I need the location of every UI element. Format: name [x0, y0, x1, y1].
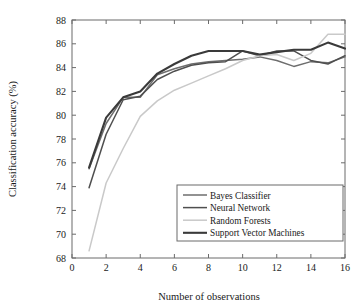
chart-figure: 0246810121416 6870727476788082848688 Num…: [0, 0, 364, 308]
x-tick-label: 0: [70, 262, 75, 273]
y-tick-label: 76: [56, 157, 66, 168]
y-tick-label: 78: [56, 134, 66, 145]
x-tick-label: 12: [272, 262, 282, 273]
y-axis-title: Classification accuracy (%): [7, 80, 19, 197]
x-axis-title: Number of observations: [158, 291, 259, 302]
y-tick-label: 84: [56, 62, 66, 73]
x-tick-label: 8: [206, 262, 211, 273]
y-tick-label: 86: [56, 38, 66, 49]
x-tick-label: 4: [138, 262, 143, 273]
legend-label: Bayes Classifier: [210, 191, 272, 201]
y-tick-label: 72: [56, 205, 66, 216]
chart-legend: Bayes ClassifierNeural NetworkRandom For…: [177, 185, 343, 241]
legend-label: Support Vector Machines: [210, 228, 305, 238]
x-tick-label: 10: [238, 262, 248, 273]
x-tick-label: 14: [306, 262, 316, 273]
x-tick-label: 6: [172, 262, 177, 273]
y-tick-label: 88: [56, 15, 66, 26]
legend-label: Random Forests: [210, 216, 271, 226]
y-tick-label: 68: [56, 253, 66, 264]
y-tick-label: 82: [56, 86, 66, 97]
y-tick-label: 70: [56, 229, 66, 240]
line-chart: 0246810121416 6870727476788082848688 Num…: [0, 0, 364, 308]
x-tick-label: 2: [104, 262, 109, 273]
legend-label: Neural Network: [210, 203, 270, 213]
y-tick-label: 80: [56, 110, 66, 121]
y-tick-label: 74: [56, 181, 66, 192]
x-tick-label: 16: [340, 262, 350, 273]
